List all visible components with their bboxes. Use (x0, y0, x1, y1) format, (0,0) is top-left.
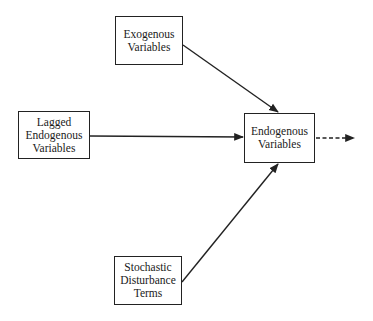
node-stochastic-disturbance-terms: Stochastic Disturbance Terms (114, 256, 182, 305)
node-label-line: Stochastic (124, 261, 171, 274)
node-label-line: Exogenous (123, 28, 174, 41)
node-label-line: Lagged (37, 116, 71, 129)
edge-exogenous-to-endogenous (183, 45, 278, 112)
node-label-line: Endogenous (251, 125, 308, 138)
node-label-line: Variables (33, 142, 76, 155)
node-label-line: Variables (128, 41, 171, 54)
edge-stochastic-to-endogenous (182, 164, 278, 282)
node-lagged-endogenous-variables: Lagged Endogenous Variables (18, 111, 90, 159)
node-label-line: Disturbance (120, 274, 176, 287)
diagram-canvas: Exogenous Variables Lagged Endogenous Va… (0, 0, 373, 321)
node-label-line: Terms (134, 287, 163, 300)
edges-layer (0, 0, 373, 321)
edge-lagged-to-endogenous (90, 136, 243, 137)
node-exogenous-variables: Exogenous Variables (115, 16, 183, 65)
node-label-line: Endogenous (26, 129, 83, 142)
node-endogenous-variables: Endogenous Variables (244, 113, 315, 163)
node-label-line: Variables (258, 138, 301, 151)
